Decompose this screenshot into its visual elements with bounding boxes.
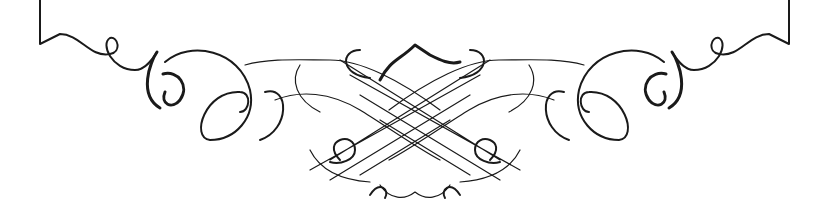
right-half — [389, 0, 789, 160]
calligraphic-flourish — [0, 0, 829, 224]
center-lattice — [310, 45, 520, 198]
